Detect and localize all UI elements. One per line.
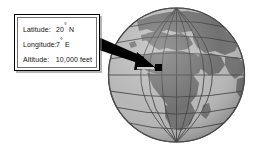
pointer-arrow bbox=[96, 32, 164, 76]
latitude-label: Latitude: bbox=[23, 22, 56, 37]
altitude-label: Altitude: bbox=[23, 52, 56, 67]
altitude-number: 10,000 bbox=[56, 56, 78, 63]
longitude-value: 7° E bbox=[56, 37, 70, 52]
latitude-number: 20 bbox=[56, 26, 64, 33]
coordinate-callout-illustration: Latitude: 20° N Longitude: 7° E Altitude… bbox=[0, 0, 257, 148]
latitude-row: Latitude: 20° N bbox=[23, 22, 92, 37]
degree-icon: ° bbox=[60, 37, 63, 44]
callout-inner-frame: Latitude: 20° N Longitude: 7° E Altitude… bbox=[17, 17, 97, 68]
coordinates-callout-box: Latitude: 20° N Longitude: 7° E Altitude… bbox=[14, 14, 100, 71]
longitude-hemisphere: E bbox=[63, 41, 70, 48]
location-marker bbox=[155, 64, 162, 71]
altitude-row: Altitude: 10,000 feet bbox=[23, 52, 92, 67]
altitude-value: 10,000 feet bbox=[56, 52, 92, 67]
longitude-label: Longitude: bbox=[23, 37, 56, 52]
altitude-unit: feet bbox=[78, 56, 92, 63]
degree-icon: ° bbox=[64, 22, 67, 29]
latitude-hemisphere: N bbox=[67, 26, 74, 33]
latitude-value: 20° N bbox=[56, 22, 74, 37]
longitude-row: Longitude: 7° E bbox=[23, 37, 92, 52]
